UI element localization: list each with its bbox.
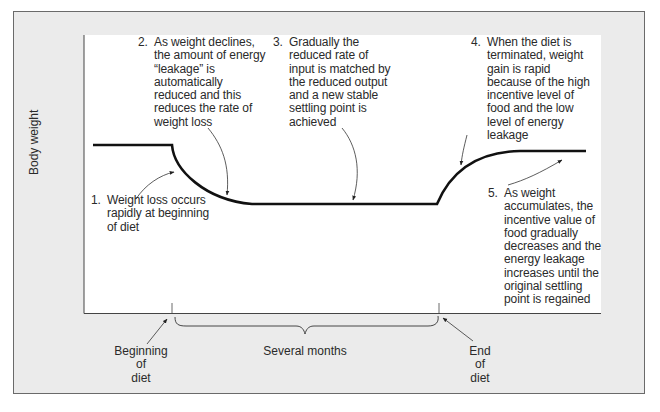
annotation-5-number: 5. (488, 187, 498, 200)
annotation-2-text: As weight declines, the amount of energy… (154, 36, 265, 129)
annotation-2-number: 2. (138, 36, 148, 49)
beginning-arrow (147, 319, 167, 344)
annotation-5-text: As weight accumulates, the incentive val… (504, 187, 601, 307)
several-months-brace (175, 316, 438, 334)
end-of-diet-label: End of diet (455, 345, 505, 385)
beginning-of-diet-label: Beginning of diet (110, 345, 172, 385)
annotation-3-text: Gradually the reduced rate of input is m… (289, 36, 391, 129)
end-arrow (443, 318, 473, 341)
y-axis-label: Body weight (27, 110, 41, 175)
annotation-4-number: 4. (471, 36, 481, 49)
annotation-1-text: Weight loss occurs rapidly at beginning … (107, 194, 209, 234)
annotation-4-text: When the diet is terminated, weight gain… (487, 36, 590, 142)
several-months-label: Several months (250, 345, 360, 358)
annotation-1-number: 1. (91, 194, 101, 207)
annotation-3-number: 3. (273, 36, 283, 49)
